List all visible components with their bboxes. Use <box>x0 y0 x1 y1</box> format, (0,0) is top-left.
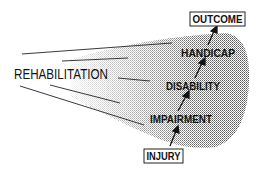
stage-disability: DISABILITY <box>166 81 220 92</box>
stage-outcome: OUTCOME <box>190 12 245 26</box>
rehabilitation-label: REHABILITATION <box>14 65 108 82</box>
stage-impairment: IMPAIRMENT <box>150 114 212 125</box>
stage-injury: INJURY <box>144 149 183 163</box>
diagram-svg: REHABILITATION OUTCOME <box>0 0 258 172</box>
stage-label: INJURY <box>147 151 181 162</box>
stage-handicap: HANDICAP <box>181 48 235 59</box>
rehabilitation-diagram: REHABILITATION OUTCOME <box>0 0 258 172</box>
stage-label: OUTCOME <box>193 14 243 25</box>
